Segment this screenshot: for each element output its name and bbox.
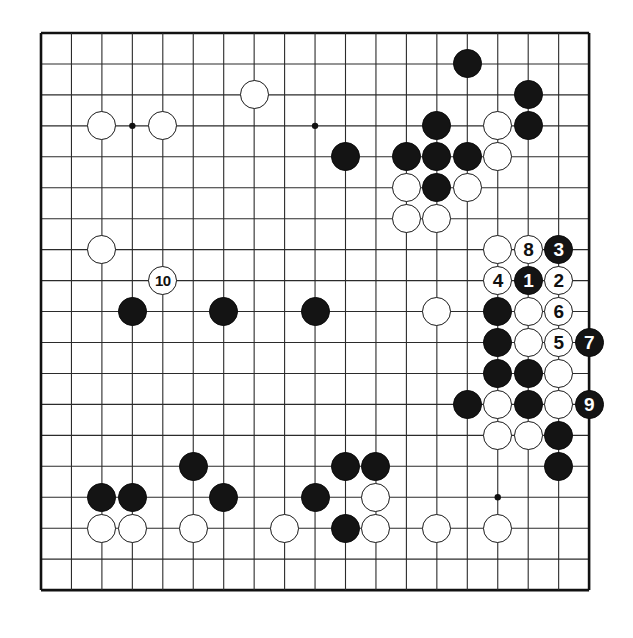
move-stone-6[interactable]: 6 — [544, 297, 573, 326]
white-stone[interactable] — [514, 328, 543, 357]
white-stone[interactable] — [240, 80, 269, 109]
white-stone[interactable] — [514, 421, 543, 450]
star-point — [495, 494, 501, 500]
white-stone[interactable] — [422, 514, 451, 543]
black-stone[interactable] — [179, 452, 208, 481]
move-number-label: 6 — [554, 302, 564, 321]
black-stone[interactable] — [209, 483, 238, 512]
white-stone[interactable] — [87, 514, 116, 543]
white-stone[interactable] — [392, 204, 421, 233]
white-stone[interactable] — [514, 297, 543, 326]
black-stone[interactable] — [514, 111, 543, 140]
black-stone[interactable] — [331, 514, 360, 543]
black-stone[interactable] — [544, 452, 573, 481]
black-stone[interactable] — [483, 359, 512, 388]
white-stone[interactable] — [118, 514, 147, 543]
black-stone[interactable] — [87, 483, 116, 512]
white-stone[interactable] — [392, 173, 421, 202]
black-stone[interactable] — [453, 142, 482, 171]
white-stone[interactable] — [361, 483, 390, 512]
move-number-label: 7 — [584, 333, 594, 352]
black-stone[interactable] — [301, 483, 330, 512]
move-stone-7[interactable]: 7 — [575, 328, 604, 357]
move-number-label: 5 — [554, 333, 564, 352]
black-stone[interactable] — [118, 483, 147, 512]
move-number-label: 9 — [584, 395, 594, 414]
star-point — [312, 123, 318, 129]
white-stone[interactable] — [179, 514, 208, 543]
white-stone[interactable] — [483, 514, 512, 543]
star-point — [129, 123, 135, 129]
black-stone[interactable] — [301, 297, 330, 326]
white-stone[interactable] — [453, 173, 482, 202]
black-stone[interactable] — [544, 421, 573, 450]
move-number-label: 3 — [554, 240, 564, 259]
white-stone[interactable] — [544, 359, 573, 388]
go-diagram: 83104126579 — [0, 0, 633, 638]
black-stone[interactable] — [514, 359, 543, 388]
black-stone[interactable] — [453, 390, 482, 419]
white-stone[interactable] — [361, 514, 390, 543]
move-stone-1[interactable]: 1 — [514, 266, 543, 295]
black-stone[interactable] — [118, 297, 147, 326]
black-stone[interactable] — [514, 80, 543, 109]
move-stone-9[interactable]: 9 — [575, 390, 604, 419]
white-stone[interactable] — [483, 390, 512, 419]
white-stone[interactable] — [544, 390, 573, 419]
move-number-label: 2 — [554, 271, 564, 290]
black-stone[interactable] — [392, 142, 421, 171]
move-stone-8[interactable]: 8 — [514, 235, 543, 264]
move-number-label: 4 — [493, 271, 503, 290]
white-stone[interactable] — [483, 421, 512, 450]
black-stone[interactable] — [514, 390, 543, 419]
black-stone[interactable] — [331, 452, 360, 481]
white-stone[interactable] — [270, 514, 299, 543]
move-number-label: 10 — [155, 273, 171, 288]
move-stone-5[interactable]: 5 — [544, 328, 573, 357]
move-number-label: 8 — [523, 240, 533, 259]
move-number-label: 1 — [523, 271, 533, 290]
